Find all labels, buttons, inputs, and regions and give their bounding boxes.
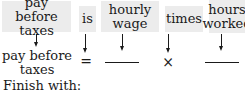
phrase-line: worked [202,17,245,31]
phrase-box-pay-before-taxes: pay before taxes [2,1,71,32]
times-sign: × [161,55,175,69]
phrase-line: wage [113,17,148,31]
phrase-line: pay before [2,0,71,24]
equals-sign: = [79,54,93,68]
variable-pay-before-taxes: pay before taxes [0,49,74,77]
phrase-box-hours-worked: hours worked [209,0,245,33]
phrase-box-is: is [79,6,96,32]
phrase-line: times [166,12,202,26]
phrase-box-times: times [165,6,203,32]
variable-line: taxes [0,63,74,77]
blank-hours-worked [205,62,239,63]
phrase-line: hours [208,3,245,17]
variable-line: pay before [0,49,74,63]
blank-hourly-wage [105,62,139,63]
phrase-box-hourly-wage: hourly wage [101,1,159,32]
phrase-line: hourly [109,3,151,17]
phrase-line: is [82,12,93,26]
finish-with-label: Finish with: [3,79,81,93]
